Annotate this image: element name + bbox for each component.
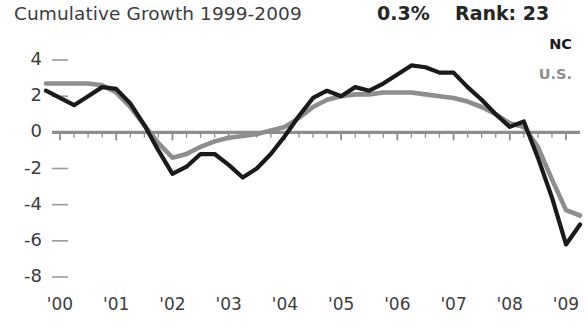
- x-axis-label: '09: [544, 296, 588, 313]
- x-axis-label: '03: [207, 296, 251, 313]
- y-axis-label: -2: [6, 159, 42, 177]
- y-axis-label: 4: [6, 50, 42, 68]
- line-chart-plot: [0, 0, 588, 330]
- x-axis-label: '01: [94, 296, 138, 313]
- x-axis-label: '07: [432, 296, 476, 313]
- y-axis-label: 0: [6, 122, 42, 140]
- x-axis-label: '05: [319, 296, 363, 313]
- y-axis-label: -4: [6, 195, 42, 213]
- series-line-us: [46, 84, 580, 216]
- x-axis-label: '02: [150, 296, 194, 313]
- x-axis-label: '08: [488, 296, 532, 313]
- y-axis-label: 2: [6, 86, 42, 104]
- chart-svg: [0, 0, 588, 330]
- y-axis-label: -6: [6, 231, 42, 249]
- chart-page: Cumulative Growth 1999-2009 0.3% Rank: 2…: [0, 0, 588, 330]
- x-axis-label: '06: [375, 296, 419, 313]
- x-axis-label: '00: [38, 296, 82, 313]
- x-axis-label: '04: [263, 296, 307, 313]
- series-line-nc: [46, 65, 580, 244]
- y-axis-label: -8: [6, 267, 42, 285]
